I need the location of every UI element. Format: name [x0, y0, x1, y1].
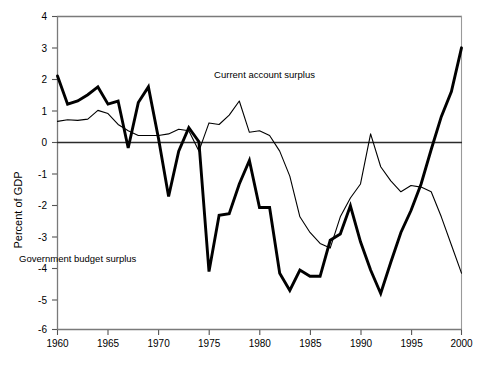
annotation-current-account-surplus: Current account surplus [214, 69, 315, 80]
x-label-2000: 2000 [450, 338, 473, 349]
y-label-neg4: -4 [38, 263, 47, 274]
annotation-government-budget-surplus: Government budget surplus [19, 253, 136, 264]
chart-background [0, 0, 491, 369]
x-axis-labels: 1960 1965 1970 1975 1980 1985 1990 1995 … [46, 338, 473, 349]
x-label-1975: 1975 [198, 338, 221, 349]
y-label-0: 0 [41, 137, 47, 148]
x-label-1960: 1960 [46, 338, 69, 349]
y-label-1: 1 [41, 106, 47, 117]
y-label-neg5: -5 [38, 295, 47, 306]
y-label-neg1: -1 [38, 169, 47, 180]
x-label-1990: 1990 [350, 338, 373, 349]
y-label-2: 2 [41, 74, 47, 85]
y-axis-title: Percent of GDP [12, 171, 24, 248]
x-label-1995: 1995 [400, 338, 423, 349]
x-label-1980: 1980 [249, 338, 272, 349]
y-label-3: 3 [41, 43, 47, 54]
x-label-1985: 1985 [299, 338, 322, 349]
y-label-neg6: -6 [38, 324, 47, 335]
y-label-4: 4 [41, 11, 47, 22]
y-label-neg3: -3 [38, 232, 47, 243]
x-label-1970: 1970 [147, 338, 170, 349]
chart-figure: 4 3 2 1 0 -1 -2 -3 -4 -5 -6 1960 1965 19… [0, 0, 491, 369]
figure-caption [0, 357, 491, 369]
y-label-neg2: -2 [38, 200, 47, 211]
x-label-1965: 1965 [97, 338, 120, 349]
